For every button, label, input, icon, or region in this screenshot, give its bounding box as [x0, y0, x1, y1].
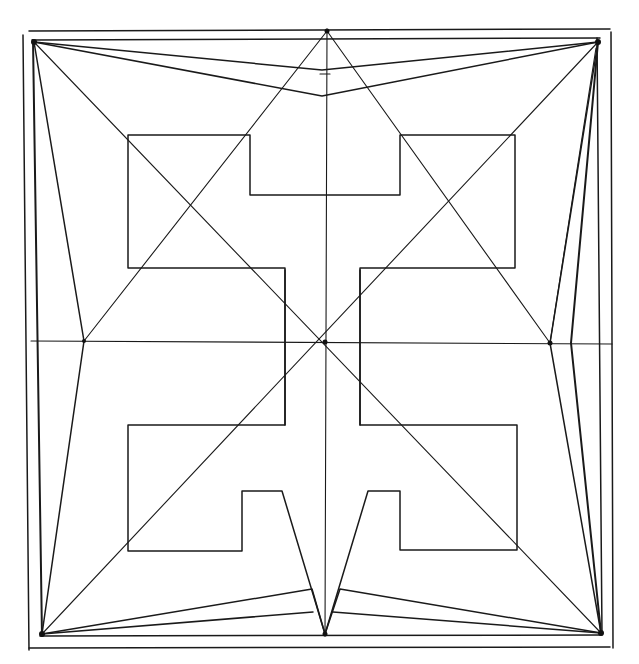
construction-drawing [0, 0, 639, 664]
junction-dots [31, 29, 604, 638]
diagram-canvas [0, 0, 639, 664]
main-diagonals [34, 42, 601, 634]
right-side-lines [550, 42, 601, 633]
top-v-lines [34, 42, 598, 96]
apex-lines [84, 31, 550, 343]
bottom-v-lines [42, 589, 601, 634]
